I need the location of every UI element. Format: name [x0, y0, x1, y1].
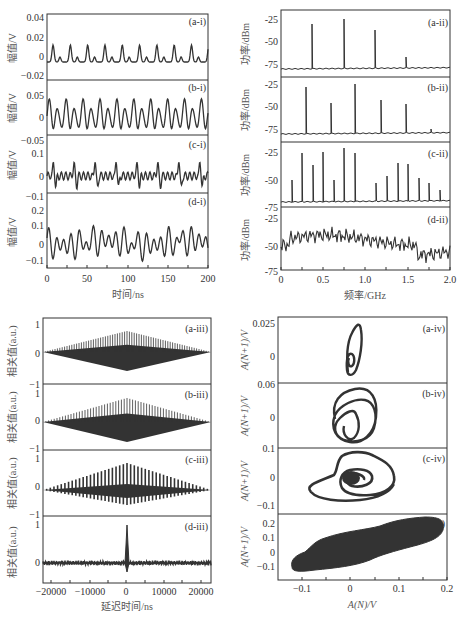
x-tick-label: 1.0	[359, 274, 372, 285]
trace-b-i	[47, 99, 208, 129]
y-tick-label: 0.1	[263, 532, 276, 543]
trace-b-iii	[43, 398, 211, 442]
trace-a-iii	[43, 331, 211, 371]
panel-tag: (c-iv)	[423, 453, 445, 465]
y-tick-label: 0	[35, 415, 40, 426]
x-tick-label: −10000	[75, 586, 106, 597]
figure-canvas: (a-i) (b-i) (c-i) (d-i) 0.04 0.02 0 −0.0…	[0, 0, 462, 619]
trace-a-iv	[347, 325, 362, 375]
y-tick-label: 0	[39, 239, 44, 250]
y-axis-title: 功率/dBm	[239, 219, 251, 261]
y-tick-label: 0	[35, 557, 40, 568]
panel-tag: (c-ii)	[428, 148, 448, 160]
x-tick-label: 150	[161, 273, 176, 284]
y-tick-label: -50	[265, 101, 278, 112]
trace-a-ii	[281, 19, 450, 69]
x-axis-title: 频率/GHz	[344, 289, 386, 301]
y-axis-title: 幅值/V	[6, 149, 18, 180]
panel-tag: (c-iii)	[185, 454, 208, 466]
y-tick-label: 1	[35, 453, 40, 464]
x-axis-title: 延迟时间/ns	[101, 600, 153, 612]
panel-tag: (d-ii)	[427, 214, 448, 226]
autocorrelation-group: (a-iii) (b-iii) (c-iii) (d-iii) 1 0 −1 1…	[6, 318, 214, 612]
y-tick-label: −0.02	[21, 70, 44, 81]
panel-tag: (a-i)	[189, 16, 206, 28]
x-tick-label: 50	[82, 273, 92, 284]
trace-c-iii	[43, 463, 211, 505]
y-axis-title: 相关值(a.u.)	[6, 457, 19, 508]
y-tick-label: 0.2	[263, 518, 276, 529]
x-tick-label: 200	[201, 273, 216, 284]
x-tick-label: 1.5	[402, 274, 415, 285]
y-axis-title: 相关值(a.u.)	[6, 526, 19, 577]
panel-tag: (d-i)	[188, 196, 206, 208]
y-tick-label: 1	[35, 519, 40, 530]
y-tick-label: 0.05	[27, 90, 45, 101]
y-tick-label: 0.04	[27, 12, 45, 23]
x-tick-label: 0	[348, 583, 353, 594]
panel-tag: (d-iv)	[422, 518, 445, 530]
y-tick-label: 1	[35, 388, 40, 399]
power-spectra-group: (a-ii) (b-ii) (c-ii) (d-ii) -25 -50 -75 …	[239, 10, 456, 301]
y-axis-title: A(N+1)/V	[239, 394, 251, 437]
x-tick-label: 0	[45, 273, 50, 284]
y-tick-label: 0	[39, 112, 44, 123]
x-tick-label: 0	[279, 274, 284, 285]
x-tick-label: 100	[121, 273, 136, 284]
time-series-group: (a-i) (b-i) (c-i) (d-i) 0.04 0.02 0 −0.0…	[6, 12, 216, 300]
y-tick-label: −0.05	[21, 135, 44, 146]
y-tick-label: 0	[39, 51, 44, 62]
trace-d-iii	[43, 525, 211, 572]
y-tick-label: 0	[270, 412, 275, 423]
y-tick-label: -25	[265, 213, 278, 224]
x-tick-label: 0.1	[393, 583, 406, 594]
x-tick-label: −20000	[36, 586, 67, 597]
y-axis-title: 相关值(a.u.)	[6, 391, 19, 442]
y-axis-title: 幅值/V	[6, 32, 18, 63]
y-tick-label: 0.1	[263, 443, 276, 454]
y-axis-title: A(N+1)/V	[239, 328, 251, 371]
y-axis-title: 相关值(a.u.)	[6, 325, 19, 376]
trace-d-iv	[292, 517, 444, 571]
y-tick-label: -75	[265, 124, 278, 135]
y-axis-title: 功率/dBm	[239, 89, 251, 131]
panel-tag: (b-i)	[188, 82, 206, 94]
trace-a-i	[47, 45, 208, 62]
trace-b-ii	[281, 84, 450, 134]
trace-c-i	[47, 162, 208, 189]
panel-tag: (a-iv)	[423, 323, 445, 335]
panel-tag: (a-iii)	[185, 323, 208, 335]
y-axis-title: 功率/dBm	[239, 23, 251, 65]
panel-tag: (b-ii)	[427, 82, 448, 94]
y-tick-label: 0.02	[27, 32, 45, 43]
x-axis-title: 时间/ns	[112, 288, 144, 300]
x-tick-label: 20000	[189, 586, 214, 597]
y-tick-label: 0.06	[258, 379, 276, 390]
x-tick-label: 0.5	[317, 274, 330, 285]
panel-tag: (a-ii)	[428, 17, 448, 29]
phase-portraits-group: (a-iv) (b-iv) (c-iv) (d-iv) 0.025 0 0.06…	[239, 317, 453, 611]
panel-tag: (d-iii)	[185, 521, 208, 533]
y-axis-title: 幅值/V	[6, 92, 18, 123]
y-tick-label: -50	[265, 175, 278, 186]
y-axis-title: 幅值/V	[6, 216, 18, 247]
x-tick-label: 2.0	[444, 274, 457, 285]
x-axis-title: A(N)/V	[347, 599, 378, 611]
y-tick-label: -50	[265, 36, 278, 47]
y-tick-label: -75	[265, 202, 278, 213]
y-axis-title: 功率/dBm	[239, 154, 251, 196]
y-tick-label: -25	[265, 14, 278, 25]
x-tick-label: 10000	[152, 586, 177, 597]
y-tick-label: 0.025	[253, 318, 276, 329]
x-tick-label: 0	[124, 586, 129, 597]
y-tick-label: 0	[35, 481, 40, 492]
y-tick-label: 0.1	[32, 220, 45, 231]
y-tick-label: -75	[265, 59, 278, 70]
y-tick-label: 0	[270, 547, 275, 558]
trace-b-iv	[333, 389, 376, 443]
y-tick-label: 0.2	[32, 205, 45, 216]
y-tick-label: −0.1	[257, 500, 275, 511]
y-tick-label: 0.1	[32, 148, 45, 159]
panel-tag: (b-iv)	[422, 388, 445, 400]
y-axis-title: A(N+1)/V	[239, 459, 251, 502]
